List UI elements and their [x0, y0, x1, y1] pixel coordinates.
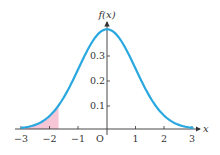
y-axis-label: f(x) — [97, 9, 115, 20]
y-tick-label: 0.1 — [90, 100, 105, 111]
x-tick-label: 1 — [132, 133, 138, 144]
y-tick-label: 0.3 — [90, 50, 105, 61]
x-axis-label: x — [203, 123, 209, 134]
chart: −3 −2 −1 O 1 2 3 0.1 0.2 0.3 f(x) x — [0, 0, 220, 155]
x-tick-label: −3 — [14, 133, 28, 144]
x-tick-label: 2 — [161, 133, 167, 144]
y-tick-label: 0.2 — [90, 75, 105, 86]
shaded-region — [22, 105, 59, 129]
x-tick-label: −2 — [42, 133, 56, 144]
x-tick-label: 3 — [189, 133, 195, 144]
x-tick-label: −1 — [71, 133, 85, 144]
origin-label: O — [96, 133, 104, 144]
